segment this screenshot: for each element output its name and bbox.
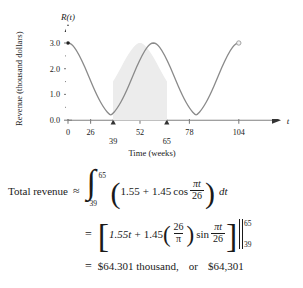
- cos-arg-numerator: πt: [191, 179, 203, 190]
- evaluation-limits: 65 39: [243, 219, 252, 249]
- y-tick-label-0: 0.0: [50, 116, 60, 125]
- cos-arg-denominator: 26: [190, 190, 204, 202]
- integral-upper-limit: 65: [99, 171, 107, 180]
- cos-argument-fraction: πt 26: [190, 179, 204, 201]
- integral-lower-limit: 39: [90, 199, 98, 208]
- curve-canvas-mask: [66, 26, 281, 119]
- integral-glyph: ∫: [87, 165, 96, 199]
- equals-sign-line3: =: [85, 259, 98, 274]
- sin-arg-denominator: 26: [211, 233, 225, 245]
- antiderivative-coefficient: 1.45: [144, 228, 163, 240]
- x-tick-label-0: 0: [66, 128, 70, 137]
- evaluation-bar: 65 39: [239, 219, 251, 249]
- curve-start-point: [66, 41, 70, 45]
- eval-lower-limit: 39: [244, 240, 252, 249]
- x-axis-symbol: t: [287, 116, 290, 126]
- definite-integral: ∫ 65 39: [85, 171, 111, 211]
- y-tick-label-2: 2.0: [50, 65, 60, 74]
- integral-computation: Total revenue ≈ ∫ 65 39 ( 1.55 + 1.45 co…: [0, 162, 303, 288]
- sin-function: sin: [194, 228, 210, 240]
- x-tick-label-65: 65: [163, 137, 171, 146]
- total-revenue-label: Total revenue: [0, 185, 68, 197]
- x-tick-label-39: 39: [109, 137, 117, 146]
- eval-upper-limit: 65: [244, 219, 252, 228]
- constant-frac-numerator: 26: [172, 222, 186, 233]
- sin-arg-numerator: πt: [212, 222, 224, 233]
- x-axis-title: Time (weeks): [128, 148, 175, 158]
- differential: dt: [215, 185, 228, 197]
- antiderivative-plus: +: [131, 228, 143, 240]
- x-tick-label-78: 78: [185, 128, 193, 137]
- constant-fraction: 26 π: [172, 222, 186, 244]
- result-conjunction: or: [179, 260, 208, 272]
- y-tick-label-1: 1.0: [50, 90, 60, 99]
- revenue-figure-panel: 3.0 2.0 1.0 0.0 Revenue (thousand dollar…: [0, 0, 303, 160]
- result-dollars: $64,301: [208, 260, 244, 272]
- integrand-constant: 1.55: [121, 185, 140, 197]
- result-thousands: $64.301 thousand,: [98, 260, 179, 272]
- approx-sign: ≈: [68, 184, 85, 199]
- x-tick-label-52: 52: [136, 128, 144, 137]
- y-axis-symbol: R(t): [60, 12, 75, 22]
- integrand-amplitude: 1.45: [152, 185, 171, 197]
- math-line-3: = $64.301 thousand, or $64,301: [0, 254, 303, 278]
- curve-end-point: [237, 41, 241, 45]
- math-line-1: Total revenue ≈ ∫ 65 39 ( 1.55 + 1.45 co…: [0, 162, 303, 214]
- sin-argument-fraction: πt 26: [211, 222, 225, 244]
- x-tick-label-26: 26: [87, 128, 95, 137]
- antiderivative-linear-term: 1.55t: [109, 228, 131, 240]
- revenue-chart: 3.0 2.0 1.0 0.0 Revenue (thousand dollar…: [0, 0, 303, 160]
- equals-sign-line2: =: [85, 227, 98, 242]
- cos-function: cos: [171, 185, 189, 197]
- y-axis-title: Revenue (thousand dollars): [14, 31, 24, 126]
- math-line-2: = [ 1.55t + 1.45 ( 26 π ) sin πt 26 ] 65…: [0, 214, 303, 254]
- x-tick-label-104: 104: [233, 128, 245, 137]
- eval-rule-1: [239, 219, 240, 249]
- linear-term-text: 1.55t: [109, 228, 131, 240]
- constant-frac-denominator: π: [174, 233, 183, 245]
- integrand-plus: +: [140, 185, 152, 197]
- y-tick-label-3: 3.0: [50, 39, 60, 48]
